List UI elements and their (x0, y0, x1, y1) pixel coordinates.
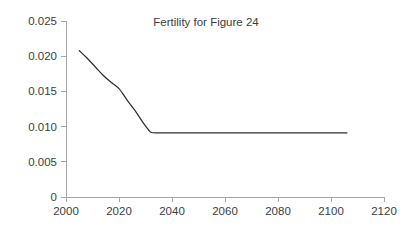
y-tick-label: 0.020 (28, 50, 57, 62)
x-tick-label: 2000 (53, 205, 79, 217)
x-tick-label: 2040 (159, 205, 185, 217)
axis-tick-marks (61, 21, 384, 202)
x-tick-label: 2060 (212, 205, 238, 217)
x-axis-tick-labels: 2000202020402060208021002120 (53, 205, 397, 217)
y-tick-label: 0.015 (28, 85, 57, 97)
y-axis-tick-labels: 00.0050.0100.0150.0200.025 (28, 15, 57, 203)
y-tick-label: 0.025 (28, 15, 57, 27)
x-tick-label: 2100 (318, 205, 344, 217)
x-tick-label: 2120 (371, 205, 397, 217)
fertility-line-chart: 00.0050.0100.0150.0200.025 2000202020402… (0, 0, 405, 231)
x-tick-label: 2020 (106, 205, 132, 217)
chart-title: Fertility for Figure 24 (153, 16, 259, 28)
fertility-series-line (79, 51, 347, 133)
y-tick-label: 0 (51, 191, 57, 203)
x-tick-label: 2080 (265, 205, 291, 217)
y-tick-label: 0.010 (28, 121, 57, 133)
y-tick-label: 0.005 (28, 156, 57, 168)
chart-figure: 00.0050.0100.0150.0200.025 2000202020402… (0, 0, 405, 231)
